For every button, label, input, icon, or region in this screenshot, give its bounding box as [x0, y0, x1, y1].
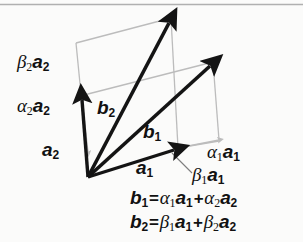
label-a2: a2 — [42, 140, 59, 162]
label-beta2-a2: β2a2 — [17, 52, 49, 74]
equation-b1-term2-vector: a2 — [220, 187, 237, 208]
label-alpha2-a2: α2a2 — [17, 96, 50, 118]
label-b1: b1 — [143, 122, 161, 144]
a2-symbol: a2 — [32, 51, 49, 72]
equation-b2-term2-scalar: β2 — [204, 211, 219, 232]
a2-symbol: a2 — [33, 95, 50, 116]
equals-sign: = — [148, 213, 160, 232]
equation-b2-lhs: b2 — [130, 211, 148, 232]
equals-sign: = — [148, 189, 160, 208]
equation-b1-term2-scalar: α2 — [204, 187, 220, 208]
equation-b1-term1-vector: a1 — [176, 187, 193, 208]
equation-b1-lhs: b1 — [130, 187, 148, 208]
construction-b2-right — [171, 18, 178, 148]
equation-b1: b1=α1a1+α2a2 — [130, 188, 237, 210]
a1-symbol: a1 — [223, 141, 240, 162]
equation-b2-term1-vector: a1 — [175, 211, 192, 232]
label-beta1-a1: β1a1 — [192, 165, 224, 187]
construction-b1-right — [213, 62, 219, 140]
beta2-symbol: β2 — [17, 51, 32, 72]
plus-sign: + — [193, 189, 205, 208]
label-alpha1-a1: α1a1 — [207, 142, 240, 164]
beta1-a1-leader-line — [172, 153, 192, 173]
beta1-symbol: β1 — [192, 164, 207, 185]
vector-decomposition-figure: β2a2 α2a2 a2 b2 b1 a1 α1a1 β1a1 b1=α1a1+… — [0, 0, 303, 242]
equation-b2-term2-vector: a2 — [219, 211, 236, 232]
construction-b2-left-upper — [76, 43, 81, 94]
construction-b2-top — [76, 18, 171, 43]
equation-b2-term1-scalar: β1 — [160, 211, 175, 232]
plus-sign: + — [192, 213, 204, 232]
a1-symbol: a1 — [207, 164, 224, 185]
equation-b2: b2=β1a1+β2a2 — [130, 212, 236, 234]
label-a1: a1 — [136, 158, 153, 180]
label-b2: b2 — [97, 98, 115, 120]
alpha1-symbol: α1 — [207, 141, 223, 162]
equation-b1-term1-scalar: α1 — [160, 187, 176, 208]
alpha2-symbol: α2 — [17, 95, 33, 116]
